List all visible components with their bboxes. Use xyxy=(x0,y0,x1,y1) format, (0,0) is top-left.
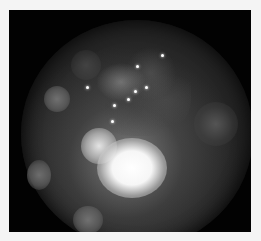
tissue-texture xyxy=(91,46,191,136)
specular-highlight xyxy=(134,90,137,93)
specular-highlight xyxy=(145,86,148,89)
specular-highlight xyxy=(136,65,139,68)
specular-highlight xyxy=(111,120,114,123)
specular-highlight xyxy=(86,86,89,89)
specular-highlight xyxy=(113,104,116,107)
bright-glare xyxy=(97,138,167,198)
bokeh-circle xyxy=(44,86,70,112)
bokeh-circle xyxy=(73,206,103,232)
specular-highlight xyxy=(161,54,164,57)
bokeh-circle xyxy=(27,160,51,190)
bokeh-circle xyxy=(194,102,238,146)
image-frame xyxy=(9,10,251,232)
specular-highlight xyxy=(127,98,130,101)
